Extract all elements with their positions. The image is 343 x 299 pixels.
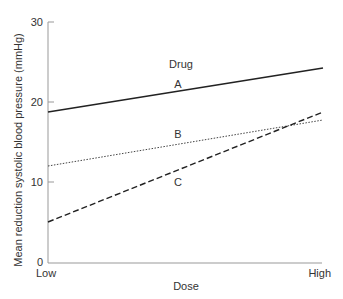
x-tick-low: Low	[36, 267, 56, 279]
series-b-line	[48, 120, 323, 166]
x-axis-label: Dose	[173, 280, 199, 292]
y-axis-label: Mean reduction systolic blood pressure (…	[12, 33, 24, 267]
label-b: B	[174, 128, 181, 140]
y-tick-30: 30	[31, 16, 43, 28]
series-c-line	[48, 112, 323, 222]
y-tick-20: 20	[31, 96, 43, 108]
label-c: C	[174, 176, 182, 188]
series-a-line	[48, 68, 323, 112]
x-tick-high: High	[308, 267, 331, 279]
chart: 30 20 10 0 Drug A B C Low High Dose Mean…	[0, 0, 343, 299]
label-a: A	[174, 78, 182, 90]
legend-title: Drug	[169, 58, 193, 70]
y-tick-10: 10	[31, 176, 43, 188]
